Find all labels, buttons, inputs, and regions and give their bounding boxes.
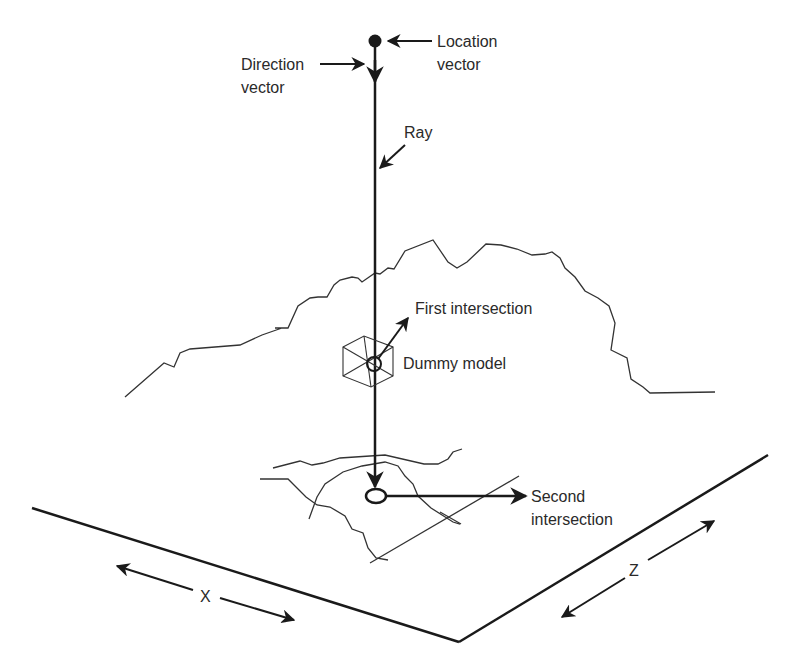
- x-axis-label: X: [200, 588, 211, 605]
- ray-label-arrow: [380, 145, 405, 168]
- direction-vector-label: Direction: [241, 56, 304, 73]
- location-point: [369, 35, 382, 48]
- second-intersection-label-line2: intersection: [531, 511, 613, 528]
- ray-intersection-diagram: Location vector Direction vector Ray Fir…: [0, 0, 793, 665]
- second-intersection-point: [366, 489, 386, 503]
- terrain-local: [260, 449, 519, 563]
- dummy-model-label: Dummy model: [403, 355, 506, 372]
- terrain-far-ridge: [125, 240, 715, 397]
- ground-plane: [32, 455, 768, 642]
- location-vector-label: Location: [437, 33, 498, 50]
- location-vector-label-line2: vector: [437, 56, 481, 73]
- second-intersection-label: Second: [531, 488, 585, 505]
- first-intersection-label: First intersection: [415, 300, 532, 317]
- direction-vector-label-line2: vector: [241, 79, 285, 96]
- z-axis-label: Z: [629, 562, 639, 579]
- ray-label: Ray: [404, 124, 432, 141]
